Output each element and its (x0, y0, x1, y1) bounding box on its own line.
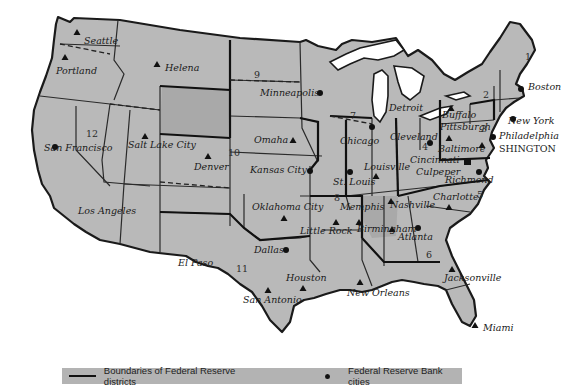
label-memphis: Memphis (339, 201, 385, 212)
label-boston: Boston (527, 81, 561, 92)
boundary-line-swatch (69, 375, 96, 377)
label-san-antonio: San Antonio (243, 294, 302, 305)
label-richmond: Richmond (444, 174, 494, 185)
map-legend: Boundaries of Federal Reserve districts … (62, 368, 462, 384)
district-7: 7 (350, 110, 356, 121)
label-seattle: Seattle (84, 35, 118, 46)
dot-chicago (369, 124, 375, 130)
label-cleveland: Cleveland (390, 131, 438, 142)
label-little-rock: Little Rock (299, 225, 353, 236)
label-louisville: Louisville (363, 161, 411, 172)
district-10: 10 (228, 147, 240, 158)
dot-kansas-city (307, 168, 313, 174)
label-dallas: Dallas (253, 244, 284, 255)
bank-city-dot-icon (325, 374, 330, 379)
label-san-francisco: San Francisco (44, 142, 113, 153)
washington-square-marker (464, 158, 471, 165)
district-6: 6 (426, 249, 432, 260)
label-detroit: Detroit (388, 102, 423, 113)
label-oklahoma-city: Oklahoma City (252, 201, 324, 212)
label-atlanta: Atlanta (397, 231, 433, 242)
label-washington: SHINGTON (499, 143, 556, 154)
label-kansas-city: Kansas City (249, 164, 307, 175)
district-4: 4 (422, 141, 428, 152)
federal-reserve-map: 1 2 3 4 5 6 7 8 9 10 11 12 Seattle Portl… (0, 0, 573, 360)
label-pittsburgh: Pittsburgh (439, 121, 491, 132)
lake-michigan (372, 70, 388, 122)
label-jacksonville: Jacksonville (442, 272, 502, 283)
dot-st-louis (347, 169, 353, 175)
us-map-svg: 1 2 3 4 5 6 7 8 9 10 11 12 Seattle Portl… (0, 0, 573, 360)
label-miami: Miami (482, 322, 513, 333)
label-denver: Denver (193, 161, 230, 172)
label-cincinnati: Cincinnati (410, 154, 460, 165)
district-1: 1 (525, 51, 531, 62)
label-el-paso: El Paso (177, 257, 213, 268)
label-minneapolis: Minneapolis (259, 87, 319, 98)
legend-cities-label: Federal Reserve Bank cities (348, 365, 462, 387)
label-philadelphia: Philadelphia (498, 130, 559, 141)
label-new-york: New York (507, 115, 555, 126)
label-los-angeles: Los Angeles (77, 205, 136, 216)
label-houston: Houston (285, 272, 327, 283)
label-charlotte: Charlotte (433, 191, 479, 202)
legend-boundaries-label: Boundaries of Federal Reserve districts (104, 365, 263, 387)
district-2: 2 (483, 89, 489, 100)
shaded-region (160, 86, 230, 138)
district-9: 9 (254, 69, 260, 80)
label-portland: Portland (55, 65, 97, 76)
label-salt-lake-city: Salt Lake City (128, 139, 197, 150)
district-11: 11 (236, 263, 248, 274)
label-nashville: Nashville (389, 199, 435, 210)
label-helena: Helena (164, 62, 200, 73)
label-omaha: Omaha (254, 134, 289, 145)
dot-boston (518, 86, 524, 92)
label-buffalo: Buffalo (441, 109, 477, 120)
dot-philadelphia (490, 134, 496, 140)
label-new-orleans: New Orleans (346, 287, 410, 298)
district-12: 12 (86, 128, 98, 139)
label-chicago: Chicago (340, 135, 379, 146)
label-baltimore: Baltimore (437, 143, 486, 154)
label-st-louis: St. Louis (333, 176, 376, 187)
